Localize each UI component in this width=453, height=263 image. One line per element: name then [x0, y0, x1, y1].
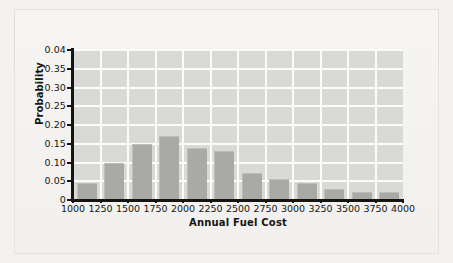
figure: 0.040.350.300.250.200.150.100.050 100012…	[0, 0, 453, 263]
bar	[187, 148, 207, 201]
bar	[132, 144, 152, 200]
bar	[214, 151, 234, 200]
bar	[104, 163, 124, 201]
y-tick-mark	[67, 162, 72, 164]
bar	[159, 136, 179, 200]
y-tick-mark	[67, 124, 72, 126]
y-tick-mark	[67, 105, 72, 107]
gridline-vertical	[210, 50, 212, 200]
y-tick-mark	[67, 68, 72, 70]
gridline-vertical	[347, 50, 349, 200]
bar	[77, 183, 97, 200]
gridline-vertical	[237, 50, 239, 200]
x-axis-title: Annual Fuel Cost	[73, 217, 403, 228]
gridline-vertical	[182, 50, 184, 200]
gridline-vertical	[292, 50, 294, 200]
plot-area-wrapper	[73, 50, 403, 200]
gridline-vertical	[320, 50, 322, 200]
y-tick-mark	[67, 49, 72, 51]
y-tick-label: 0.10	[20, 157, 66, 168]
y-tick-mark	[67, 143, 72, 145]
x-tick-label: 4000	[386, 203, 420, 214]
bar	[269, 179, 289, 200]
y-tick-label: 0.05	[20, 175, 66, 186]
y-axis-title: Probability	[34, 34, 45, 154]
bar	[242, 173, 262, 200]
gridline-vertical	[265, 50, 267, 200]
gridline-vertical	[375, 50, 377, 200]
y-tick-mark	[67, 87, 72, 89]
gridline-vertical	[127, 50, 129, 200]
gridline-vertical	[155, 50, 157, 200]
bar	[297, 183, 317, 200]
y-tick-mark	[67, 180, 72, 182]
gridline-vertical	[100, 50, 102, 200]
